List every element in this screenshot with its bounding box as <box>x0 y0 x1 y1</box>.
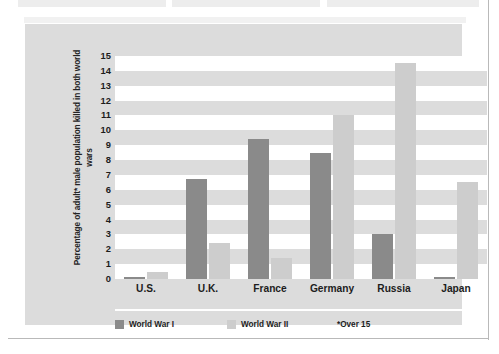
chart-panel: Percentage of adult* male population kil… <box>25 24 462 325</box>
legend-swatch-ww2 <box>227 320 236 329</box>
x-axis-label-russia: Russia <box>363 283 425 294</box>
box-fragment-center <box>172 0 320 7</box>
page-rule-bottom <box>8 338 489 339</box>
bar-france-ww2 <box>271 258 292 279</box>
y-axis-tick-15: 15 <box>85 51 111 61</box>
bar-germany-ww1 <box>310 153 331 279</box>
legend-label-ww2: World War II <box>241 320 288 329</box>
y-axis-tick-11: 11 <box>85 110 111 120</box>
box-fragment-left <box>18 0 166 7</box>
legend-swatch-ww1 <box>115 320 124 329</box>
y-axis-tick-9: 9 <box>85 140 111 150</box>
bar-uk-ww2 <box>209 243 230 279</box>
y-axis-tick-3: 3 <box>85 229 111 239</box>
legend-footnote: *Over 15 <box>337 320 370 329</box>
y-axis-tick-5: 5 <box>85 200 111 210</box>
legend-item-ww1: World War I <box>115 320 174 329</box>
y-axis-label: Percentage of adult* male population kil… <box>63 54 83 269</box>
y-axis-tick-12: 12 <box>85 96 111 106</box>
y-axis-tick-8: 8 <box>85 155 111 165</box>
y-axis-tick-13: 13 <box>85 81 111 91</box>
y-axis-tick-0: 0 <box>85 274 111 284</box>
x-axis-label-japan: Japan <box>425 283 487 294</box>
y-axis-tick-4: 4 <box>85 215 111 225</box>
bar-france-ww1 <box>248 139 269 279</box>
legend-label-ww1: World War I <box>129 320 174 329</box>
bar-us-ww1 <box>124 277 145 279</box>
x-axis-label-germany: Germany <box>301 283 363 294</box>
y-axis-tick-1: 1 <box>85 259 111 269</box>
x-axis-label-uk: U.K. <box>177 283 239 294</box>
x-axis-label-france: France <box>239 283 301 294</box>
box-fragment-strip <box>24 17 466 23</box>
bar-russia-ww2 <box>395 63 416 279</box>
y-axis-tick-10: 10 <box>85 125 111 135</box>
legend-separator <box>115 309 487 311</box>
bar-group-container <box>115 56 487 279</box>
bar-uk-ww1 <box>186 179 207 279</box>
y-axis-tick-7: 7 <box>85 170 111 180</box>
y-axis-tick-6: 6 <box>85 185 111 195</box>
box-fragment-right <box>327 0 479 7</box>
top-box-fragments <box>0 0 499 10</box>
bar-russia-ww1 <box>372 234 393 279</box>
y-axis-tick-2: 2 <box>85 244 111 254</box>
bar-japan-ww2 <box>457 182 478 279</box>
bar-japan-ww1 <box>434 277 455 279</box>
x-axis-category-labels: U.S.U.K.FranceGermanyRussiaJapan <box>115 283 487 299</box>
bar-germany-ww2 <box>333 115 354 279</box>
bar-us-ww2 <box>147 272 168 279</box>
y-axis-tick-14: 14 <box>85 66 111 76</box>
legend-item-ww2: World War II <box>227 320 288 329</box>
y-axis-tick-labels: 0123456789101112131415 <box>85 50 111 285</box>
page-rule-right <box>488 0 489 340</box>
x-axis-label-us: U.S. <box>115 283 177 294</box>
